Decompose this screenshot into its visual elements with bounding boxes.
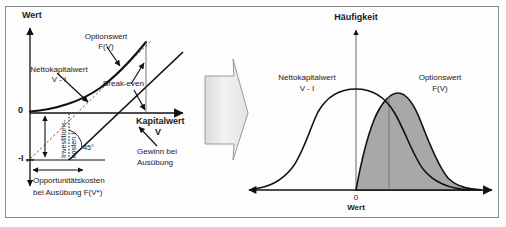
left-x-axis-label-line1: Kapitalwert — [136, 116, 185, 126]
right-nettokapitalwert-label-line2: V - I — [261, 85, 353, 94]
right-y-axis-label: Häufigkeit — [316, 12, 396, 22]
right-x-tick-zero: 0 — [340, 194, 372, 203]
right-nettokapitalwert-label-line1: Nettokapitalwert — [261, 74, 353, 83]
left-x-axis-label-line2: V — [155, 127, 161, 137]
left-profit-label-line1: Gewinn bei — [137, 148, 177, 157]
block-arrow-right-icon — [205, 59, 248, 160]
right-chart-group — [249, 30, 492, 190]
left-profit-label-line2: Ausübung — [137, 159, 173, 168]
left-tick-zero: 0 — [18, 105, 23, 115]
middle-block-arrow-group — [205, 59, 248, 160]
left-opportunity-label-line1: Opportunitätskosten — [33, 177, 105, 186]
figure-root: Wert Optionswert F(V) Nettokapitalwert V… — [0, 0, 506, 227]
left-nettokapitalwert-label-line2: V - I — [14, 76, 104, 85]
left-investment-cost-label-line1: Investitions- — [60, 120, 68, 158]
right-optionswert-label-line1: Optionswert — [404, 74, 476, 83]
left-opportunity-label-line2: bei Ausübung F(V*) — [33, 189, 102, 198]
left-breakeven-label: Break-even — [103, 80, 144, 89]
left-investment-cost-label-line2: kosten I — [70, 133, 78, 158]
left-optionswert-label-line1: Optionswert — [70, 33, 142, 42]
left-y-axis-label: Wert — [22, 10, 42, 20]
left-angle-label: 45° — [83, 144, 94, 152]
right-optionswert-label-line2: F(V) — [404, 85, 476, 94]
right-x-axis-label: Wert — [340, 204, 372, 213]
left-optionswert-label-line2: F(V) — [70, 43, 142, 52]
left-tick-minus-i: -I — [18, 153, 24, 163]
left-nettokapitalwert-label-line1: Nettokapitalwert — [14, 66, 104, 75]
right-option-distribution-fill — [356, 93, 482, 190]
